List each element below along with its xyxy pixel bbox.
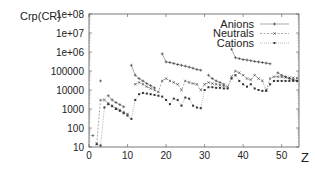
- x-tick-label: 50: [276, 150, 288, 161]
- y-tick-label: 1e+07: [56, 28, 85, 39]
- plot-axes: 101001000100001000001e+061e+071e+0801020…: [51, 9, 309, 166]
- y-tick-label: 100: [67, 123, 84, 134]
- series-anions: [91, 48, 298, 137]
- y-tick-label: 1e+06: [56, 47, 85, 58]
- y-tick-label: 1000: [62, 104, 85, 115]
- plot-frame: [89, 14, 299, 147]
- x-tick-label: 0: [86, 150, 92, 161]
- y-tick-label: 10000: [56, 85, 84, 96]
- y-tick-label: 1e+08: [56, 9, 85, 20]
- plot-series: [91, 48, 298, 147]
- x-axis-label: Z: [301, 150, 309, 165]
- x-tick-label: 30: [199, 150, 211, 161]
- y-tick-label: 10: [73, 142, 85, 153]
- x-tick-label: 20: [161, 150, 173, 161]
- legend-label-cations: Cations: [217, 37, 255, 49]
- y-tick-label: 100000: [51, 66, 85, 77]
- x-tick-label: 10: [122, 150, 134, 161]
- chart: 101001000100001000001e+061e+071e+0801020…: [0, 0, 315, 172]
- x-tick-label: 40: [238, 150, 250, 161]
- legend: AnionsNeutralsCations: [213, 18, 289, 49]
